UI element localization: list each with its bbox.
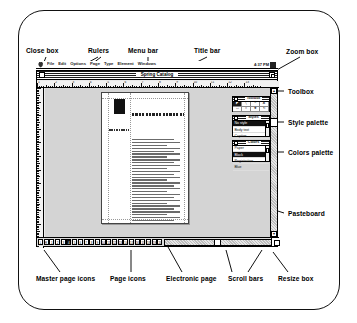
horizontal-ruler[interactable]: 12345678910111213 bbox=[37, 81, 279, 88]
document-window: Spring Catalog 12345678910111213 bbox=[36, 70, 278, 247]
menu-item-windows[interactable]: Windows bbox=[138, 62, 156, 66]
page-icon[interactable]: 5 bbox=[72, 239, 77, 245]
ruler-tick bbox=[91, 86, 92, 88]
page-subhead[interactable] bbox=[109, 129, 129, 131]
horizontal-scroll-thumb[interactable] bbox=[214, 240, 221, 245]
menu-clock[interactable]: 4:37 PM bbox=[254, 62, 269, 67]
colors-palette-scrollbar[interactable] bbox=[265, 146, 269, 161]
page-icon[interactable]: 16 bbox=[135, 239, 140, 245]
menu-item-edit[interactable]: Edit bbox=[58, 62, 66, 66]
ruler-tick bbox=[177, 86, 178, 88]
menu-item-options[interactable]: Options bbox=[70, 62, 86, 66]
vertical-scroll-bar[interactable]: ▲ ▼ bbox=[270, 88, 277, 237]
page-icon-strip[interactable]: L R 1234567891011121314151617181920 bbox=[37, 238, 163, 246]
ruler-number: 4 bbox=[90, 81, 92, 84]
apple-menu-icon[interactable] bbox=[38, 62, 43, 68]
close-icon[interactable] bbox=[234, 116, 238, 120]
menu-item-element[interactable]: Element bbox=[117, 62, 133, 66]
ruler-tick bbox=[41, 86, 42, 88]
ruler-tick bbox=[162, 86, 163, 88]
vertical-ruler[interactable] bbox=[37, 88, 44, 248]
master-page-icon-left[interactable]: L bbox=[38, 239, 43, 245]
page-icon[interactable]: 2 bbox=[55, 239, 60, 245]
page-icon[interactable]: 3 bbox=[61, 239, 66, 245]
rotate-tool[interactable]: ↻ bbox=[260, 107, 269, 112]
callout-close-box: Close box bbox=[26, 47, 58, 54]
page-icon[interactable]: 9 bbox=[95, 239, 100, 245]
ruler-tick bbox=[128, 86, 129, 88]
page-icon[interactable]: 15 bbox=[129, 239, 134, 245]
application-menu-icon[interactable] bbox=[270, 62, 276, 68]
window-title: Spring Catalog bbox=[136, 73, 179, 78]
menu-item-page[interactable]: Page bbox=[90, 62, 100, 66]
vertical-scroll-thumb[interactable] bbox=[271, 118, 277, 127]
page-icon[interactable]: 7 bbox=[84, 239, 89, 245]
ruler-tick bbox=[115, 85, 116, 88]
close-box-icon[interactable] bbox=[39, 72, 45, 78]
page-headline[interactable] bbox=[132, 113, 184, 116]
ruler-tick bbox=[119, 86, 120, 88]
page-icon[interactable]: 1 bbox=[49, 239, 54, 245]
page-icon[interactable]: 4 bbox=[66, 239, 71, 245]
color-item-blue[interactable]: Blue bbox=[233, 164, 269, 170]
ellipse-tool[interactable]: ○ bbox=[242, 107, 251, 112]
close-icon[interactable] bbox=[234, 141, 238, 145]
page-icon[interactable]: 19 bbox=[152, 239, 157, 245]
style-palette-scrollbar[interactable] bbox=[265, 121, 269, 136]
ruler-tick bbox=[197, 86, 198, 88]
zoom-box-icon[interactable] bbox=[269, 72, 275, 78]
callout-toolbox: Toolbox bbox=[288, 88, 314, 95]
ruler-tick bbox=[180, 86, 181, 88]
ruler-tick bbox=[156, 86, 157, 88]
ruler-tick bbox=[80, 85, 81, 88]
ruler-tick bbox=[229, 86, 230, 88]
colors-palette[interactable]: Colors Paper Black Registration Blue bbox=[232, 140, 270, 162]
ruler-tick bbox=[234, 86, 235, 88]
horizontal-scroll-bar[interactable] bbox=[164, 239, 278, 246]
ruler-tick bbox=[190, 86, 191, 88]
page-icon[interactable]: 18 bbox=[146, 239, 151, 245]
page-icon[interactable]: 14 bbox=[123, 239, 128, 245]
page-icon[interactable]: 10 bbox=[101, 239, 106, 245]
page-icon[interactable]: 8 bbox=[89, 239, 94, 245]
page-icon[interactable]: 13 bbox=[118, 239, 123, 245]
ruler-tick bbox=[100, 86, 101, 88]
ruler-tick bbox=[110, 86, 111, 88]
menu-bar[interactable]: File Edit Options Page Type Element Wind… bbox=[36, 61, 278, 69]
menu-item-file[interactable]: File bbox=[47, 62, 54, 66]
master-page-icon-right[interactable]: R bbox=[44, 239, 49, 245]
ruler-tick bbox=[171, 86, 172, 88]
ruler-number: 8 bbox=[159, 81, 161, 84]
style-palette[interactable]: Styles No style Body text Caption Headli… bbox=[232, 115, 270, 137]
ruler-number: 10 bbox=[194, 81, 198, 84]
ruler-tick bbox=[63, 85, 64, 88]
electronic-page[interactable] bbox=[101, 92, 189, 224]
title-bar[interactable]: Spring Catalog bbox=[37, 71, 277, 80]
page-icon[interactable]: 20 bbox=[157, 239, 162, 245]
ruler-tick bbox=[257, 86, 258, 88]
ruler-tick bbox=[61, 86, 62, 88]
page-icon[interactable]: 11 bbox=[106, 239, 111, 245]
toolbox-palette[interactable]: Toolbox ◤ ╲ └ A ▭ ○ ✚ ↻ bbox=[232, 96, 270, 112]
ruler-tick bbox=[113, 86, 114, 88]
page-icon[interactable]: 12 bbox=[112, 239, 117, 245]
ruler-tick bbox=[104, 86, 105, 88]
callout-colors-palette: Colors palette bbox=[288, 149, 333, 156]
callout-resize-box: Resize box bbox=[278, 275, 313, 282]
scroll-up-arrow-icon[interactable]: ▲ bbox=[271, 88, 277, 94]
black-box-graphic[interactable] bbox=[114, 99, 125, 114]
ruler-tick bbox=[69, 86, 70, 88]
menu-item-type[interactable]: Type bbox=[104, 62, 113, 66]
page-icon[interactable]: 6 bbox=[78, 239, 83, 245]
ruler-tick bbox=[173, 86, 174, 88]
callout-style-palette: Style palette bbox=[288, 119, 328, 126]
resize-box[interactable] bbox=[271, 237, 279, 246]
page-icon[interactable]: 17 bbox=[140, 239, 145, 245]
rectangle-tool[interactable]: ▭ bbox=[233, 107, 242, 112]
body-text-block[interactable] bbox=[132, 139, 180, 224]
ruler-tick bbox=[82, 86, 83, 88]
ruler-tick bbox=[74, 86, 75, 88]
ruler-tick bbox=[147, 86, 148, 88]
cropping-tool[interactable]: ✚ bbox=[251, 107, 260, 112]
tool-grid[interactable]: ◤ ╲ └ A ▭ ○ ✚ ↻ bbox=[233, 102, 269, 112]
